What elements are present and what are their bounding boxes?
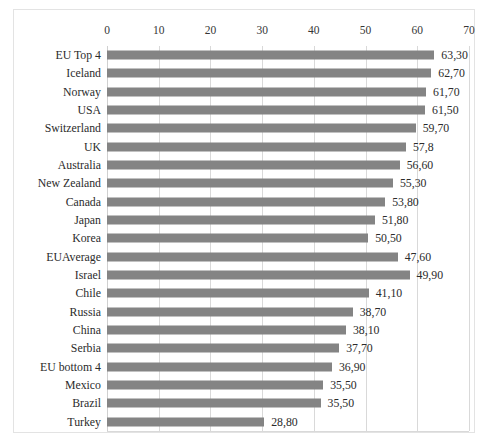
category-label: UK [84, 139, 101, 154]
x-axis-tick-0: 0 [104, 24, 110, 36]
bar-value-label: 62,70 [438, 66, 465, 81]
bar-value-label: 59,70 [423, 121, 450, 136]
bar-row: Japan51,80 [107, 211, 469, 229]
bar-value-label: 50,50 [375, 231, 402, 246]
x-axis-tick-70: 70 [463, 24, 475, 36]
bar-row: EUAverage47,60 [107, 248, 469, 266]
bar-row: Serbia37,70 [107, 339, 469, 357]
bar-row: Korea50,50 [107, 229, 469, 247]
category-label: Norway [63, 84, 101, 99]
category-label: EU Top 4 [56, 48, 102, 63]
bar [107, 252, 398, 261]
category-label: Turkey [67, 414, 101, 429]
x-axis-baseline [107, 431, 469, 432]
bar-row: Brazil35,50 [107, 394, 469, 412]
bar-value-label: 41,10 [376, 286, 403, 301]
bar-row: Iceland62,70 [107, 64, 469, 82]
bar-value-label: 38,70 [360, 304, 387, 319]
bar [107, 106, 425, 115]
bar [107, 179, 393, 188]
x-axis-tick-30: 30 [256, 24, 268, 36]
bar-row: Israel49,90 [107, 266, 469, 284]
bar [107, 307, 353, 316]
bar [107, 142, 406, 151]
category-label: Australia [58, 158, 101, 173]
bar-value-label: 35,50 [330, 378, 357, 393]
category-label: Canada [66, 194, 101, 209]
bar-value-label: 57,8 [413, 139, 434, 154]
x-axis-tick-20: 20 [205, 24, 217, 36]
bar-value-label: 63,30 [441, 48, 468, 63]
x-axis-tick-40: 40 [308, 24, 320, 36]
bar [107, 381, 323, 390]
bar-row: Russia38,70 [107, 303, 469, 321]
bar [107, 289, 369, 298]
bar-row: USA61,50 [107, 101, 469, 119]
bar-value-label: 55,30 [400, 176, 427, 191]
bar-row: EU bottom 436,90 [107, 358, 469, 376]
bar [107, 216, 375, 225]
category-label: Iceland [66, 66, 101, 81]
bar-row: New Zealand55,30 [107, 174, 469, 192]
bar-row: Mexico35,50 [107, 376, 469, 394]
category-label: Serbia [71, 341, 101, 356]
category-label: USA [77, 103, 101, 118]
bar-row: Norway61,70 [107, 83, 469, 101]
bar-value-label: 37,70 [346, 341, 373, 356]
bar [107, 197, 385, 206]
category-label: China [73, 323, 101, 338]
x-axis-tick-50: 50 [360, 24, 372, 36]
category-label: Israel [75, 268, 101, 283]
bar-row: Canada53,80 [107, 193, 469, 211]
bar-value-label: 53,80 [392, 194, 419, 209]
category-label: Russia [70, 304, 101, 319]
x-axis-tick-labels: 010203040506070 [107, 24, 469, 44]
bar [107, 344, 339, 353]
chart-frame: 010203040506070 EU Top 463,30Iceland62,7… [13, 9, 475, 433]
category-label: Korea [72, 231, 101, 246]
plot-area: EU Top 463,30Iceland62,70Norway61,70USA6… [107, 46, 469, 431]
bar-row: EU Top 463,30 [107, 46, 469, 64]
bar-value-label: 61,50 [432, 103, 459, 118]
category-label: EUAverage [46, 249, 101, 264]
bar-value-label: 51,80 [382, 213, 409, 228]
bar [107, 417, 264, 426]
bar [107, 271, 410, 280]
bar [107, 362, 332, 371]
bar [107, 234, 368, 243]
bar-value-label: 35,50 [328, 396, 355, 411]
category-label: Switzerland [45, 121, 101, 136]
bar-row: Turkey28,80 [107, 413, 469, 431]
bar [107, 161, 400, 170]
bar [107, 326, 346, 335]
category-label: EU bottom 4 [40, 359, 101, 374]
bar-row: Australia56,60 [107, 156, 469, 174]
bar-value-label: 56,60 [407, 158, 434, 173]
bar-row: Switzerland59,70 [107, 119, 469, 137]
gridline-70 [469, 46, 470, 431]
bar [107, 399, 321, 408]
bar-value-label: 47,60 [405, 249, 432, 264]
category-label: Chile [75, 286, 101, 301]
bar [107, 51, 434, 60]
category-label: Mexico [65, 378, 101, 393]
category-label: Japan [74, 213, 101, 228]
bar-value-label: 49,90 [417, 268, 444, 283]
bar-row: UK57,8 [107, 138, 469, 156]
category-label: New Zealand [38, 176, 101, 191]
bar [107, 124, 416, 133]
bar-value-label: 28,80 [271, 414, 298, 429]
x-axis-tick-10: 10 [153, 24, 165, 36]
x-axis-tick-60: 60 [412, 24, 424, 36]
bar-value-label: 36,90 [339, 359, 366, 374]
bar [107, 69, 431, 78]
bar-value-label: 61,70 [433, 84, 460, 99]
bar-row: Chile41,10 [107, 284, 469, 302]
category-label: Brazil [72, 396, 101, 411]
bar [107, 87, 426, 96]
bar-value-label: 38,10 [353, 323, 380, 338]
bar-row: China38,10 [107, 321, 469, 339]
